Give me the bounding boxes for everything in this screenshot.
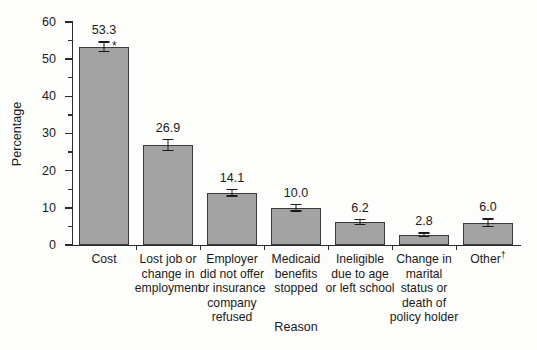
y-tick-minor (68, 226, 72, 227)
bar[interactable] (143, 145, 193, 245)
x-tick (136, 245, 137, 250)
error-bar-cap-bottom (483, 226, 494, 227)
y-tick-minor (68, 77, 72, 78)
error-bar-cap-top (227, 189, 238, 190)
error-bar-cap-bottom (291, 210, 302, 211)
y-tick-label: 40 (42, 89, 56, 103)
category-label-line: marital (385, 267, 463, 282)
y-axis-title: Percentage (10, 102, 24, 166)
category-label: Other† (449, 252, 527, 267)
error-bar-cap-bottom (227, 195, 238, 196)
error-bar-cap-bottom (419, 236, 430, 237)
error-bar-cap-top (483, 218, 494, 219)
bar[interactable] (207, 193, 257, 245)
category-label-line: status or (385, 281, 463, 296)
category-label-line: refused (193, 310, 271, 325)
y-tick-label: 10 (42, 201, 56, 215)
y-tick-label: 0 (49, 238, 56, 252)
bar-value-label: 14.1 (220, 171, 244, 185)
y-tick-label: 30 (42, 126, 56, 140)
error-bar (355, 219, 366, 225)
x-tick (200, 245, 201, 250)
y-tick-minor (68, 151, 72, 152)
y-tick-major: 60 (65, 21, 72, 22)
y-tick-major: 20 (65, 170, 72, 171)
y-tick-major: 10 (65, 207, 72, 208)
error-bar-cap-top (291, 204, 302, 205)
category-label-line: company (193, 296, 271, 311)
x-tick (328, 245, 329, 250)
error-bar (227, 189, 238, 197)
y-tick-major: 30 (65, 133, 72, 134)
error-bar-cap-bottom (99, 51, 110, 52)
significance-marker: * (112, 40, 117, 52)
x-tick (456, 245, 457, 250)
x-tick (392, 245, 393, 250)
error-bar-cap-top (419, 232, 430, 233)
bar-value-label: 6.2 (351, 201, 368, 215)
bar-value-label: 53.3 (92, 23, 116, 37)
error-bar (291, 204, 302, 211)
error-bar-cap-bottom (355, 224, 366, 225)
error-bar (163, 139, 174, 152)
error-bar (483, 218, 494, 227)
x-tick (264, 245, 265, 250)
bar[interactable] (335, 222, 385, 245)
y-tick-label: 60 (42, 15, 56, 29)
bar-value-label: 26.9 (156, 121, 180, 135)
bar-value-label: 6.0 (479, 200, 496, 214)
error-bar-cap-top (355, 219, 366, 220)
category-label-line: policy holder (385, 310, 463, 325)
y-tick-label: 20 (42, 164, 56, 178)
y-tick-major: 50 (65, 58, 72, 59)
y-tick-minor (68, 40, 72, 41)
bar-value-label: 10.0 (284, 186, 308, 200)
category-label-line: death of (385, 296, 463, 311)
x-axis-title: Reason (274, 320, 317, 334)
bar-value-label: 2.8 (415, 214, 432, 228)
plot-area: 0102030405060 *53.326.914.110.06.22.86.0 (72, 22, 520, 245)
error-bar-cap-top (163, 139, 174, 140)
error-bar (419, 232, 430, 236)
bar-chart-figure: Percentage Reason 0102030405060 *53.326.… (0, 0, 537, 350)
y-tick-minor (68, 189, 72, 190)
bar[interactable] (271, 208, 321, 245)
y-tick-minor (68, 114, 72, 115)
footnote-marker: † (501, 250, 506, 260)
category-label-line: Other† (449, 252, 527, 267)
bar[interactable] (79, 47, 129, 245)
y-tick-label: 50 (42, 52, 56, 66)
y-tick-major: 0 (65, 244, 72, 245)
x-axis-line (72, 245, 521, 246)
error-bar-cap-top (99, 41, 110, 42)
y-tick-major: 40 (65, 96, 72, 97)
error-bar (99, 41, 110, 52)
error-bar-cap-bottom (163, 150, 174, 151)
